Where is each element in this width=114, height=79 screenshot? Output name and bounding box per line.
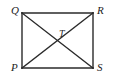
vertex-label-q: Q — [11, 5, 19, 16]
intersection-label-t: T — [59, 29, 65, 39]
vertex-label-s: S — [97, 62, 103, 73]
vertex-label-p: P — [11, 62, 18, 73]
vertex-label-r: R — [97, 5, 104, 16]
diagonals-group — [22, 13, 93, 68]
geometry-figure: Q R P S T — [0, 0, 114, 79]
